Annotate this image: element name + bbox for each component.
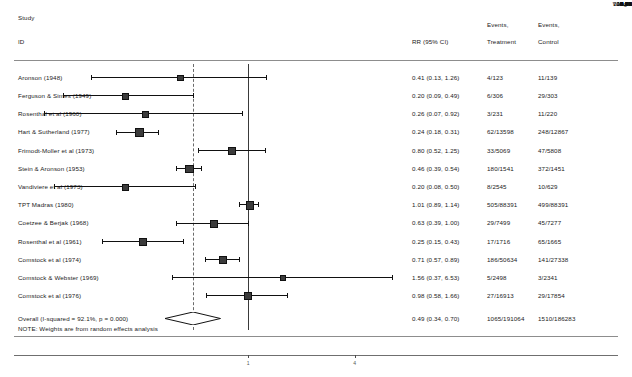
forest-plot: StudyIDRR (95% CI)Events,TreatmentEvents… xyxy=(0,0,632,377)
effect-estimate: 0.24 (0.18, 0.31) xyxy=(412,128,460,135)
ci-cap-upper xyxy=(193,93,194,98)
study-weight-marker xyxy=(122,93,129,100)
x-axis-line xyxy=(14,355,618,356)
pooled-reference-line xyxy=(193,64,194,330)
events-control: 29/17854 xyxy=(538,292,565,299)
study-label: Frimodt-Moller et al (1973) xyxy=(18,147,94,154)
ci-cap-lower xyxy=(239,202,240,207)
study-label: Stein & Aronson (1953) xyxy=(18,165,85,172)
study-weight-marker xyxy=(210,220,218,228)
overall-events-control: 1510/186283 xyxy=(538,315,576,322)
events-control: 499/88391 xyxy=(538,201,568,208)
x-axis-tick-label: 4 xyxy=(345,360,365,366)
ci-cap-lower xyxy=(205,257,206,262)
header-events-treatment-2: Treatment xyxy=(487,38,516,45)
ci-cap-upper xyxy=(287,293,288,298)
ci-cap-upper xyxy=(195,184,196,189)
ci-cap-lower xyxy=(172,275,173,280)
study-label: Coetzee & Berjak (1968) xyxy=(18,219,89,226)
events-treatment: 6/306 xyxy=(487,92,503,99)
header-separator-rule xyxy=(14,60,618,61)
events-control: 141/27338 xyxy=(538,256,568,263)
ci-cap-upper xyxy=(258,202,259,207)
header-id: ID xyxy=(18,38,24,45)
effect-estimate: 0.98 (0.58, 1.66) xyxy=(412,292,460,299)
study-label: Rosenthal et al (1961) xyxy=(18,238,82,245)
overall-diamond xyxy=(165,312,220,325)
study-weight-marker xyxy=(122,184,129,191)
events-treatment: 62/13598 xyxy=(487,128,514,135)
events-treatment: 505/88391 xyxy=(487,201,517,208)
events-control: 10/629 xyxy=(538,183,558,190)
events-treatment: 27/16913 xyxy=(487,292,514,299)
events-treatment: 180/1541 xyxy=(487,165,514,172)
ci-cap-lower xyxy=(206,293,207,298)
events-treatment: 4/123 xyxy=(487,74,503,81)
ci-cap-lower xyxy=(44,111,45,116)
ci-cap-lower xyxy=(91,75,92,80)
events-control: 11/220 xyxy=(538,110,557,117)
study-weight-marker xyxy=(219,256,228,265)
effect-estimate: 0.20 (0.09, 0.49) xyxy=(412,92,460,99)
header-events-control-1: Events, xyxy=(538,21,560,28)
events-treatment: 8/2545 xyxy=(487,183,507,190)
ci-cap-upper xyxy=(266,75,267,80)
overall-effect-estimate: 0.49 (0.34, 0.70) xyxy=(412,315,460,322)
study-weight-marker xyxy=(246,201,255,210)
effect-estimate: 0.63 (0.39, 1.00) xyxy=(412,219,460,226)
study-weight-marker xyxy=(142,111,148,117)
ci-cap-upper xyxy=(392,275,393,280)
events-control: 47/5808 xyxy=(538,147,561,154)
effect-estimate: 0.46 (0.39, 0.54) xyxy=(412,165,460,172)
effect-estimate: 0.71 (0.57, 0.89) xyxy=(412,256,460,263)
effect-estimate: 0.41 (0.13, 1.26) xyxy=(412,74,460,81)
events-treatment: 29/7499 xyxy=(487,219,510,226)
study-label: TPT Madras (1980) xyxy=(18,201,74,208)
ci-cap-upper xyxy=(158,130,159,135)
events-control: 3/2341 xyxy=(538,274,558,281)
study-label: Comstock et al (1974) xyxy=(18,256,81,263)
overall-events-treatment: 1065/191064 xyxy=(487,315,525,322)
study-weight-marker xyxy=(135,128,144,137)
footer-separator-rule xyxy=(14,336,618,337)
ci-cap-lower xyxy=(63,93,64,98)
header-effect: RR (95% CI) xyxy=(412,38,448,45)
ci-cap-upper xyxy=(183,239,184,244)
study-weight-marker xyxy=(228,147,236,155)
footnote-random-effects: NOTE: Weights are from random effects an… xyxy=(18,325,158,332)
effect-estimate: 0.25 (0.15, 0.43) xyxy=(412,238,460,245)
study-weight-marker xyxy=(280,275,286,281)
events-treatment: 33/5069 xyxy=(487,147,510,154)
study-label: Aronson (1948) xyxy=(18,74,62,81)
header-events-treatment-1: Events, xyxy=(487,21,509,28)
study-weight-marker xyxy=(139,238,147,246)
events-control: 45/7277 xyxy=(538,219,561,226)
ci-cap-lower xyxy=(176,166,177,171)
events-treatment: 186/50634 xyxy=(487,256,517,263)
ci-cap-upper xyxy=(242,111,243,116)
events-control: 248/12867 xyxy=(538,128,568,135)
events-treatment: 5/2498 xyxy=(487,274,507,281)
effect-estimate: 1.01 (0.89, 1.14) xyxy=(412,201,460,208)
study-weight-marker xyxy=(177,75,184,82)
study-label: Hart & Sutherland (1977) xyxy=(18,128,90,135)
effect-estimate: 0.20 (0.08, 0.50) xyxy=(412,183,460,190)
study-weight-marker xyxy=(185,165,194,174)
x-axis-tick-label: 1 xyxy=(238,360,258,366)
x-axis-tick xyxy=(248,355,249,358)
ci-cap-upper xyxy=(201,166,202,171)
study-label: Comstock & Webster (1969) xyxy=(18,274,99,281)
events-treatment: 17/1716 xyxy=(487,238,510,245)
study-label: Comstock et al (1976) xyxy=(18,292,81,299)
ci-cap-lower xyxy=(198,148,199,153)
events-control: 372/1451 xyxy=(538,165,565,172)
ci-cap-lower xyxy=(102,239,103,244)
effect-estimate: 0.80 (0.52, 1.25) xyxy=(412,147,460,154)
null-reference-line xyxy=(248,64,249,330)
events-control: 29/303 xyxy=(538,92,558,99)
events-control: 65/1665 xyxy=(538,238,561,245)
study-weight-marker xyxy=(244,292,252,300)
ci-cap-upper xyxy=(265,148,266,153)
x-axis-tick xyxy=(355,355,356,358)
effect-estimate: 0.26 (0.07, 0.92) xyxy=(412,110,460,117)
